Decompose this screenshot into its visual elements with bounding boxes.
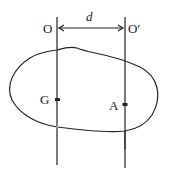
label-o: O — [43, 21, 52, 36]
label-a: A — [109, 98, 119, 113]
point-g-marker — [55, 98, 60, 101]
point-a-marker — [123, 103, 128, 106]
label-g: G — [40, 92, 49, 107]
label-d: d — [86, 9, 93, 24]
label-o-prime: O′ — [128, 21, 140, 36]
parallel-axis-diagram: O O′ d G A — [0, 0, 175, 175]
rigid-body-outline — [10, 47, 158, 131]
